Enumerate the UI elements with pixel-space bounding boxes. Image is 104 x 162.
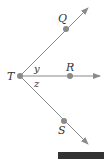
ray-TS xyxy=(20,76,88,144)
label-T: T xyxy=(7,70,16,83)
point-T xyxy=(17,73,23,79)
label-S: S xyxy=(58,124,66,137)
black-bar xyxy=(58,152,104,159)
label-R: R xyxy=(65,61,74,74)
angle-label-z: z xyxy=(33,78,40,89)
angle-label-y: y xyxy=(33,63,40,74)
ray-TQ xyxy=(20,8,88,76)
geometry-diagram: Q T R S y z xyxy=(0,0,104,162)
label-Q: Q xyxy=(58,12,67,25)
point-Q xyxy=(63,26,69,32)
